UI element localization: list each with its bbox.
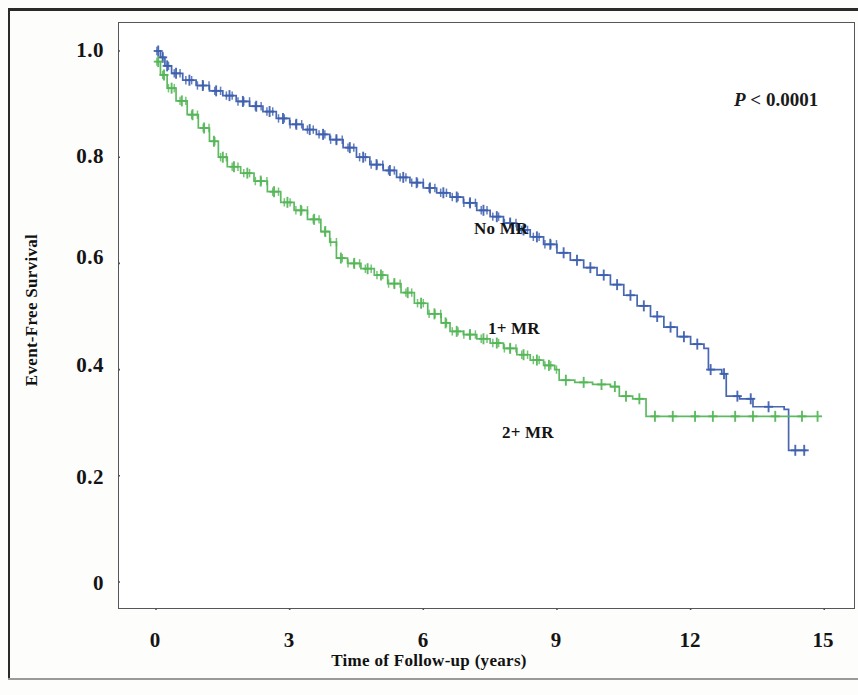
y-tick-label: 0.6 <box>76 245 104 270</box>
x-tick-label: 6 <box>418 628 429 653</box>
x-tick-label: 9 <box>551 628 562 653</box>
x-tick-label: 0 <box>150 628 161 653</box>
x-axis-title: Time of Follow-up (years) <box>0 651 858 671</box>
scan-border-top <box>8 8 858 11</box>
x-tick-label: 3 <box>284 628 295 653</box>
y-tick-label: 0.4 <box>76 353 104 378</box>
p-value-annotation: P < 0.0001 <box>734 89 818 111</box>
scan-border-bottom <box>8 678 858 680</box>
y-axis-ticks: 1.0 0.8 0.6 0.4 0.2 0 <box>0 0 104 620</box>
x-tick-label: 15 <box>813 628 834 653</box>
y-tick-label: 0 <box>93 571 104 596</box>
survival-plot-figure: 1.0 0.8 0.6 0.4 0.2 0 Event-Free Surviva… <box>0 0 858 695</box>
y-tick-label: 0.8 <box>76 144 104 169</box>
curve-label-no-mr: No MR <box>474 219 528 239</box>
curve-label-1-plus-mr: 1+ MR <box>488 319 540 339</box>
p-value-text: < 0.0001 <box>750 89 818 110</box>
plot-area: P < 0.0001 No MR 1+ MR 2+ MR <box>118 22 855 609</box>
survival-curves-svg <box>119 23 856 610</box>
curve-label-2-plus-mr: 2+ MR <box>502 423 554 443</box>
y-tick-label: 0.2 <box>76 465 104 490</box>
y-axis-title: Event-Free Survival <box>22 180 42 440</box>
x-tick-label: 12 <box>680 628 701 653</box>
y-tick-label: 1.0 <box>76 38 104 63</box>
p-symbol: P <box>734 89 746 110</box>
